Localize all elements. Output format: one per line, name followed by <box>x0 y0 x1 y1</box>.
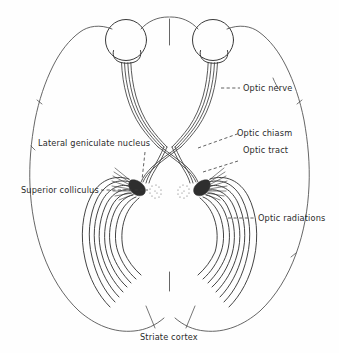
brain-outline-group <box>30 17 310 331</box>
left-optic-radiation-fiber-8 <box>122 198 141 275</box>
lateral-geniculate-nucleus-label: Lateral geniculate nucleus <box>38 138 150 148</box>
uncrossed-fiber-left-1 <box>146 147 164 183</box>
left-hemisphere-outline <box>30 26 164 331</box>
frontal-lobe-left-arc <box>141 17 169 29</box>
striate-cortex-leader-right <box>186 306 195 328</box>
optic-nerve-label: Optic nerve <box>243 83 292 93</box>
left-optic-nerve-fiber-4 <box>131 63 167 148</box>
right-optic-nerve-fiber-3 <box>175 63 211 147</box>
visual-pathway-figure: Optic nerve Optic chiasm Optic tract Opt… <box>0 0 339 353</box>
striate-cortex-leader-left <box>146 306 155 328</box>
left-superior-colliculus <box>149 184 161 198</box>
optic-chiasm-label: Optic chiasm <box>237 128 292 138</box>
superior-colliculi-group <box>149 184 189 198</box>
brain-diagram-canvas: Optic nerve Optic chiasm Optic tract Opt… <box>0 0 339 353</box>
right-hemisphere-outline <box>175 26 309 331</box>
striate-cortex-label: Striate cortex <box>140 332 198 342</box>
lateral-geniculate-nuclei-group <box>112 168 227 200</box>
superior-colliculus-label: Superior colliculus <box>21 185 99 195</box>
optic-tract-leader <box>203 161 238 172</box>
chiasm-crossing-fiber-l2 <box>161 147 198 182</box>
optic-chiasm-and-tracts-group <box>141 147 198 183</box>
right-retina-crescent <box>200 51 228 64</box>
right-superior-colliculus <box>177 184 189 198</box>
uncrossed-fiber-right-2 <box>172 147 190 183</box>
optic-tract-label: Optic tract <box>243 145 289 155</box>
uncrossed-fiber-left-2 <box>149 147 167 183</box>
chiasm-crossing-fiber-r2 <box>141 147 178 182</box>
optic-nerves-group <box>122 63 218 148</box>
frontal-lobe-right-arc <box>170 17 198 29</box>
outline-tick-left-mid <box>31 146 35 150</box>
right-optic-radiation-fiber-8 <box>198 198 217 275</box>
right-optic-nerve-fiber-4 <box>172 63 208 148</box>
optic-chiasm-leader <box>198 133 240 148</box>
left-retina-crescent <box>113 51 141 64</box>
uncrossed-fiber-right-1 <box>175 147 193 183</box>
left-optic-nerve-fiber-3 <box>128 63 164 147</box>
optic-radiations-label: Optic radiations <box>258 213 325 223</box>
labels-group: Optic nerve Optic chiasm Optic tract Opt… <box>21 83 325 342</box>
